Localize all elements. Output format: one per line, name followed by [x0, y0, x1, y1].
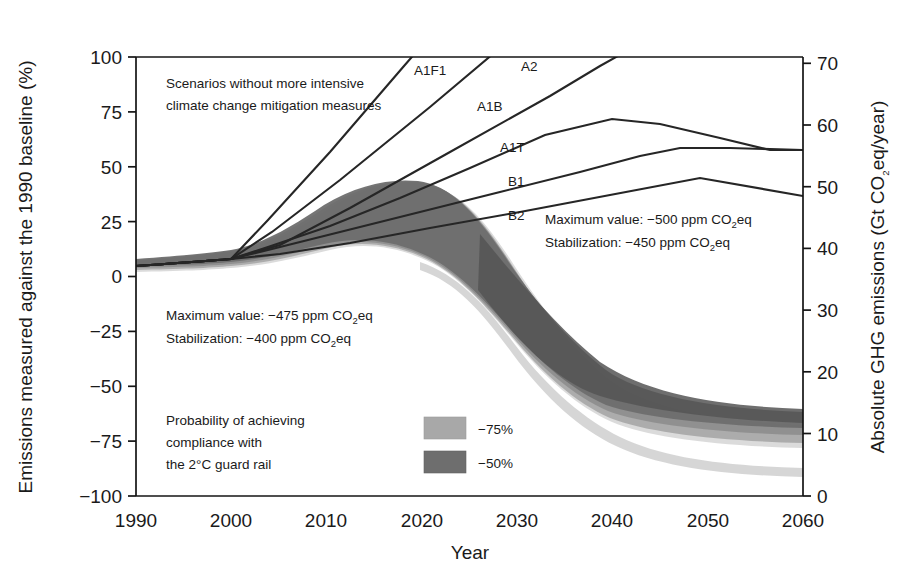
scenario-label-a1t: A1T [500, 140, 525, 155]
y-left-tick-label: 25 [101, 212, 122, 233]
legend-label-75: −75% [478, 422, 513, 437]
y-right-axis-title-pre: Absolute GHG emissions (Gt CO [867, 176, 888, 454]
y-right-tick-label: 50 [817, 177, 838, 198]
x-tick-label: 2030 [496, 510, 538, 531]
scenario-label-a1f1: A1F1 [414, 63, 446, 78]
chart-svg: 100 75 50 25 0 −25 −50 −75 −100 70 60 50… [0, 0, 915, 582]
scenario-label-a1b: A1B [477, 99, 503, 114]
y-left-axis-title: Emissions measured against the 1990 base… [15, 60, 36, 493]
scenario-label-b1: B1 [508, 174, 525, 189]
x-tick-label: 2060 [782, 510, 824, 531]
x-tick-label: 2020 [401, 510, 443, 531]
y-left-tick-label: −75 [90, 431, 122, 452]
y-left-tick-label: 50 [101, 157, 122, 178]
legend-caption-line-3: the 2°C guard rail [166, 457, 271, 472]
legend-swatch-75 [424, 417, 466, 439]
y-right-tick-label: 20 [817, 362, 838, 383]
legend-swatch-50 [424, 451, 466, 473]
x-tick-label: 2010 [305, 510, 347, 531]
x-tick-label: 2040 [591, 510, 633, 531]
y-left-tick-label: 0 [111, 266, 122, 287]
y-left-tick-label: −100 [79, 486, 122, 507]
scenario-label-b2: B2 [508, 208, 525, 223]
y-right-axis-title: Absolute GHG emissions (Gt CO2eq/year) [867, 101, 891, 454]
svg-text:Absolute GHG emissions (Gt CO2: Absolute GHG emissions (Gt CO2eq/year) [867, 101, 891, 454]
x-tick-label: 1990 [115, 510, 157, 531]
y-left-tick-label: 100 [90, 47, 122, 68]
y-right-axis-title-post: eq/year) [867, 101, 888, 171]
header-line-2: climate change mitigation measures [166, 98, 382, 113]
chart-figure: 100 75 50 25 0 −25 −50 −75 −100 70 60 50… [0, 0, 915, 582]
y-left-tick-label: −50 [90, 376, 122, 397]
y-right-tick-label: 40 [817, 238, 838, 259]
y-right-tick-label: 0 [817, 486, 828, 507]
scenario-label-a2: A2 [521, 59, 538, 74]
y-left-tick-label: 75 [101, 102, 122, 123]
y-left-tick-label: −25 [90, 321, 122, 342]
legend-caption-line-2: compliance with [166, 435, 262, 450]
x-axis-title: Year [451, 542, 490, 563]
legend-label-50: −50% [478, 456, 513, 471]
y-right-tick-label: 60 [817, 115, 838, 136]
header-line-1: Scenarios without more intensive [166, 76, 364, 91]
y-right-tick-label: 10 [817, 424, 838, 445]
x-tick-label: 2000 [210, 510, 252, 531]
y-right-tick-label: 30 [817, 300, 838, 321]
legend-caption-line-1: Probability of achieving [166, 413, 305, 428]
x-tick-label: 2050 [687, 510, 729, 531]
y-right-tick-label: 70 [817, 53, 838, 74]
